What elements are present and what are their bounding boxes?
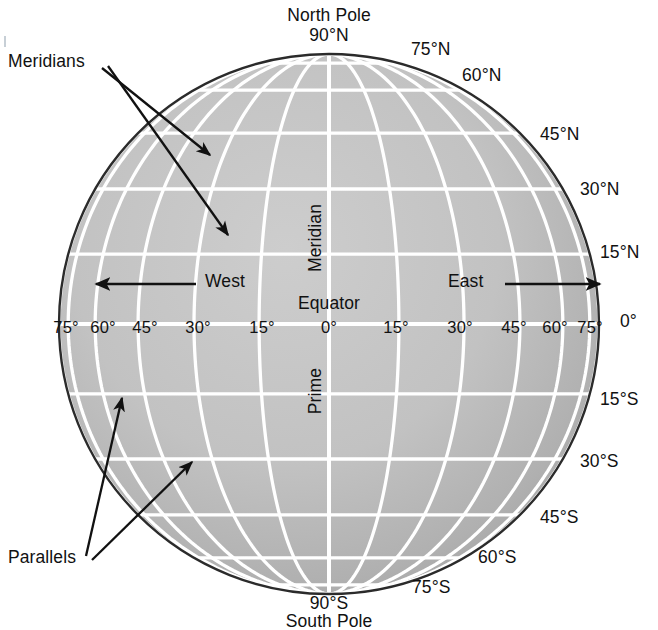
lat-label-30n: 30°N: [580, 180, 620, 200]
lon-label-e45: 45°: [501, 318, 526, 336]
lat-label-15n: 15°N: [600, 243, 640, 263]
lat-label-60s: 60°S: [478, 548, 517, 568]
equator-label: Equator: [298, 294, 360, 314]
lon-label-w45: 45°: [132, 318, 157, 336]
lon-label-w75: 75°: [53, 318, 78, 336]
meridians-callout-label: Meridians: [8, 52, 85, 72]
north-pole-value: 90°N: [309, 26, 349, 46]
lon-label-e60: 60°: [542, 318, 567, 336]
lon-label-w15: 15°: [249, 318, 274, 336]
lat-label-75n: 75°N: [411, 40, 451, 60]
lon-label-w30: 30°: [185, 318, 210, 336]
lon-label-0: 0°: [321, 318, 337, 336]
lat-label-0: 0°: [620, 312, 637, 332]
lat-label-60n: 60°N: [462, 66, 502, 86]
west-label: West: [205, 272, 245, 292]
lon-label-e15: 15°: [383, 318, 408, 336]
lat-label-15s: 15°S: [600, 390, 639, 410]
parallels-callout-label: Parallels: [8, 548, 76, 568]
lat-label-75s: 75°S: [412, 578, 451, 598]
east-label: East: [448, 272, 483, 292]
lon-label-e75: 75°: [577, 318, 602, 336]
lon-label-w60: 60°: [90, 318, 115, 336]
lat-label-30s: 30°S: [580, 452, 619, 472]
meridian-vertical-label: Meridian: [306, 204, 326, 272]
prime-vertical-label: Prime: [306, 368, 326, 414]
lat-label-45s: 45°S: [540, 508, 579, 528]
lon-label-e30: 30°: [447, 318, 472, 336]
lat-label-45n: 45°N: [540, 125, 580, 145]
south-pole-label: South Pole: [286, 612, 373, 630]
globe-diagram: North Pole 90°N 90°S South Pole 75°N 60°…: [0, 0, 658, 630]
globe-svg: [0, 0, 658, 630]
north-pole-label: North Pole: [287, 6, 371, 26]
